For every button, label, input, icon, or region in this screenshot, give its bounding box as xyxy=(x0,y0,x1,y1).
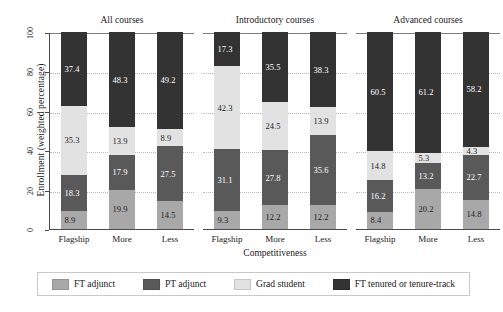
bar-segment[interactable]: 12.2 xyxy=(310,205,337,229)
bar-segment[interactable]: 18.3 xyxy=(61,175,88,211)
legend-label: Grad student xyxy=(256,279,305,289)
bar-segment[interactable]: 13.2 xyxy=(415,163,442,189)
bar-segment[interactable]: 31.1 xyxy=(214,149,241,210)
bar-stack[interactable]: 58.24.322.714.8 xyxy=(463,32,490,229)
bar-stack[interactable]: 60.514.816.28.4 xyxy=(367,32,394,229)
bar-segment[interactable]: 27.5 xyxy=(157,146,184,200)
bar-segment[interactable]: 17.3 xyxy=(214,32,241,66)
bar-segment[interactable]: 9.3 xyxy=(214,211,241,229)
bar-segment-value: 48.3 xyxy=(113,75,128,84)
chart-panel: Advanced courses60.514.816.28.4Flagship6… xyxy=(356,33,500,230)
bar-segment-value: 4.3 xyxy=(467,147,478,155)
bar-segment-value: 38.3 xyxy=(314,65,329,74)
bar-segment[interactable]: 20.2 xyxy=(415,189,442,229)
bar-segment[interactable]: 35.3 xyxy=(61,106,88,176)
legend-swatch xyxy=(333,279,350,290)
bar-stack[interactable]: 35.524.527.812.2 xyxy=(262,32,289,229)
bar-segment[interactable]: 49.2 xyxy=(157,32,184,129)
bar-segment-value: 13.2 xyxy=(419,172,434,181)
bar-stack[interactable]: 61.25.313.220.2 xyxy=(415,32,442,229)
bar-segment-value: 58.2 xyxy=(467,85,482,94)
x-axis-tick-label: Less xyxy=(452,234,500,244)
bar-segment-value: 35.6 xyxy=(314,165,329,174)
legend-swatch xyxy=(52,279,69,290)
bar-segment[interactable]: 61.2 xyxy=(415,32,442,153)
bar-segment-value: 8.9 xyxy=(161,133,172,142)
legend-label: FT adjunct xyxy=(74,279,115,289)
legend-item[interactable]: FT tenured or tenure-track xyxy=(333,279,455,290)
y-axis-tick-label: 100 xyxy=(18,29,44,37)
legend-item[interactable]: PT adjunct xyxy=(143,279,206,290)
bar-segment[interactable]: 13.9 xyxy=(310,107,337,134)
chart-legend: FT adjunctPT adjunctGrad studentFT tenur… xyxy=(37,272,470,296)
bar-stack[interactable]: 48.313.917.919.9 xyxy=(109,32,136,229)
bar-segment[interactable]: 8.9 xyxy=(157,129,184,147)
bar-segment[interactable]: 12.2 xyxy=(262,205,289,229)
bar-segment-value: 5.3 xyxy=(419,153,430,162)
bar-segment-value: 24.5 xyxy=(266,122,281,131)
bar-segment[interactable]: 58.2 xyxy=(463,32,490,147)
x-axis-tick-label: More xyxy=(98,234,146,244)
bar-stack[interactable]: 17.342.331.19.3 xyxy=(214,32,241,229)
y-axis-tick-mark xyxy=(45,72,49,73)
panel-title: Advanced courses xyxy=(356,15,500,25)
bar-segment-value: 20.2 xyxy=(419,204,434,213)
stacked-bar-chart-figure: Enrollment (weighted percentage) 0204060… xyxy=(0,0,503,312)
bar-segment-value: 8.4 xyxy=(371,216,382,225)
bar-segment[interactable]: 8.4 xyxy=(367,212,394,229)
bar-segment[interactable]: 22.7 xyxy=(463,155,490,200)
bar-stack[interactable]: 38.313.935.612.2 xyxy=(310,32,337,229)
bar-segment[interactable]: 48.3 xyxy=(109,32,136,127)
bar-segment[interactable]: 14.5 xyxy=(157,201,184,230)
legend-label: FT tenured or tenure-track xyxy=(355,279,455,289)
bar-segment-value: 35.5 xyxy=(266,62,281,71)
bar-segment[interactable]: 42.3 xyxy=(214,66,241,149)
bar-segment[interactable]: 60.5 xyxy=(367,32,394,151)
bar-stack[interactable]: 37.435.318.38.9 xyxy=(61,32,88,229)
chart-panel: Introductory courses17.342.331.19.3Flags… xyxy=(203,33,347,230)
legend-label: PT adjunct xyxy=(165,279,206,289)
legend-item[interactable]: FT adjunct xyxy=(52,279,115,290)
bar-segment-value: 22.7 xyxy=(467,173,482,182)
bar-segment[interactable]: 8.9 xyxy=(61,211,88,229)
bar-segment[interactable]: 24.5 xyxy=(262,102,289,150)
bar-segment-value: 16.2 xyxy=(371,192,386,201)
bar-segment-value: 60.5 xyxy=(371,87,386,96)
x-axis-tick-label: More xyxy=(251,234,299,244)
bar-segment[interactable]: 37.4 xyxy=(61,32,88,106)
bar-segment-value: 27.5 xyxy=(161,169,176,178)
bar-segment[interactable]: 14.8 xyxy=(367,151,394,180)
bar-segment-value: 14.5 xyxy=(161,210,176,219)
bar-segment-value: 14.8 xyxy=(467,210,482,219)
y-axis-tick-label: 40 xyxy=(18,147,44,155)
bar-segment-value: 17.3 xyxy=(218,45,233,54)
bar-segment[interactable]: 14.8 xyxy=(463,200,490,229)
bar-segment-value: 8.9 xyxy=(65,216,76,225)
legend-swatch xyxy=(143,279,160,290)
y-axis-tick-mark xyxy=(45,191,49,192)
bar-segment[interactable]: 35.6 xyxy=(310,135,337,205)
bar-segment-value: 17.9 xyxy=(113,168,128,177)
y-axis-title: Enrollment (weighted percentage) xyxy=(36,15,46,245)
bar-segment[interactable]: 38.3 xyxy=(310,32,337,107)
y-axis-tick-mark xyxy=(45,151,49,152)
bar-segment[interactable]: 13.9 xyxy=(109,127,136,154)
y-axis-tick-mark xyxy=(45,33,49,34)
chart-panel: All courses37.435.318.38.9Flagship48.313… xyxy=(50,33,194,230)
bar-stack[interactable]: 49.28.927.514.5 xyxy=(157,32,184,229)
bar-segment[interactable]: 4.3 xyxy=(463,147,490,155)
legend-item[interactable]: Grad student xyxy=(234,279,305,290)
bar-segment-value: 12.2 xyxy=(314,212,329,221)
bar-segment[interactable]: 17.9 xyxy=(109,155,136,190)
bar-segment[interactable]: 19.9 xyxy=(109,190,136,229)
x-axis-title: Competitiveness xyxy=(50,248,500,258)
bar-segment[interactable]: 5.3 xyxy=(415,153,442,163)
bar-segment-value: 37.4 xyxy=(65,64,80,73)
bar-segment[interactable]: 27.8 xyxy=(262,150,289,205)
bar-segment-value: 31.1 xyxy=(218,176,233,185)
bar-segment[interactable]: 35.5 xyxy=(262,32,289,102)
y-axis-tick-label: 20 xyxy=(18,187,44,195)
bar-segment-value: 18.3 xyxy=(65,189,80,198)
bar-segment[interactable]: 16.2 xyxy=(367,180,394,212)
x-axis-tick-label: Flagship xyxy=(50,234,98,244)
